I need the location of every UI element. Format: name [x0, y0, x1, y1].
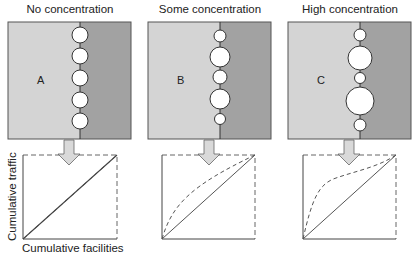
facility-circle	[213, 70, 227, 84]
region-panel-a	[8, 22, 131, 139]
facility-circle	[354, 29, 366, 41]
panel-letter-a: A	[37, 74, 44, 86]
facility-circle	[72, 27, 88, 43]
chart-c	[303, 155, 396, 239]
facility-circle	[354, 119, 366, 131]
down-arrow-c	[338, 140, 360, 165]
facility-circle	[210, 47, 230, 67]
facility-circle	[346, 87, 374, 115]
facility-circle	[355, 73, 366, 84]
facility-circle	[72, 48, 88, 64]
facility-circle	[210, 89, 230, 109]
panel-letter-c: C	[317, 74, 325, 86]
facility-circle	[72, 70, 88, 86]
facility-circle	[72, 113, 88, 129]
facility-circle	[215, 114, 226, 125]
diagram-canvas	[0, 0, 416, 261]
y-axis-label: Cumulative traffic	[6, 152, 18, 241]
down-arrow-a	[58, 140, 80, 165]
facility-circle	[72, 92, 88, 108]
region-panel-b	[148, 22, 271, 139]
panel-letter-b: B	[177, 74, 184, 86]
region-panel-c	[288, 22, 411, 139]
x-axis-label: Cumulative facilities	[22, 242, 124, 254]
facility-circle	[348, 46, 372, 70]
chart-b	[162, 155, 255, 239]
facility-circle	[214, 30, 226, 42]
down-arrow-b	[198, 140, 220, 165]
chart-a	[23, 155, 117, 239]
